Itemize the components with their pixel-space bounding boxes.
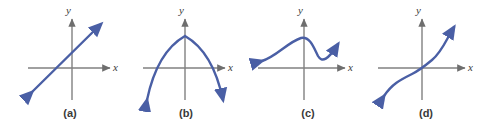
panel-b-graph: x y xyxy=(124,0,248,112)
panel-c-graph: x y xyxy=(246,0,370,112)
x-axis-label: x xyxy=(467,61,473,73)
x-axis-label: x xyxy=(347,61,353,73)
panel-c: x y (c) xyxy=(246,0,370,134)
curve-increasing-line xyxy=(32,24,101,92)
panel-d: x y (d) xyxy=(364,0,488,134)
panel-caption-a: (a) xyxy=(8,107,132,119)
panel-b: x y (b) xyxy=(124,0,248,134)
x-axis-label: x xyxy=(227,61,233,73)
panel-caption-d: (d) xyxy=(364,107,488,119)
figure-row: x y (a) x y (b) xyxy=(0,0,496,134)
curve-cubic-local-extrema xyxy=(262,38,338,61)
panel-d-graph: x y xyxy=(364,0,488,112)
x-axis-label: x xyxy=(112,61,118,73)
panel-caption-c: (c) xyxy=(246,107,370,119)
panel-a-graph: x y xyxy=(8,0,132,112)
y-axis-label: y xyxy=(65,4,71,16)
panel-a: x y (a) xyxy=(8,0,132,134)
y-axis-label: y xyxy=(297,4,303,16)
curve-increasing-cubic xyxy=(384,27,454,96)
y-axis-label: y xyxy=(415,4,421,16)
y-axis-label: y xyxy=(178,4,184,16)
panel-caption-b: (b) xyxy=(124,107,248,119)
